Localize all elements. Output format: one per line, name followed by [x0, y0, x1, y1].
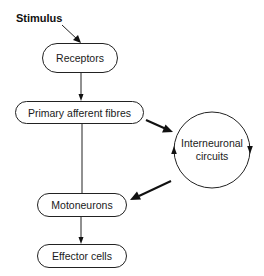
receptors-node: Receptors: [43, 44, 118, 73]
afferent-to-interneuronal-arrow: [146, 120, 173, 133]
effector-cells-label: Effector cells: [52, 250, 112, 262]
interneuronal-label-line2: circuits: [196, 150, 229, 162]
primary-afferent-node: Primary afferent fibres: [16, 102, 144, 124]
receptors-label: Receptors: [56, 52, 104, 64]
interneuronal-label-line1: Interneuronal: [181, 137, 243, 149]
interneuronal-to-motoneurons-arrow: [130, 181, 171, 200]
interneuronal-circuits-node: Interneuronal circuits: [171, 112, 253, 188]
reflex-pathway-diagram: Stimulus Receptors Primary afferent fibr…: [0, 0, 264, 276]
receptors-to-afferent-arrow: [79, 73, 84, 101]
effector-cells-node: Effector cells: [38, 245, 127, 268]
primary-afferent-label: Primary afferent fibres: [28, 107, 131, 119]
stimulus-label: Stimulus: [16, 12, 62, 24]
stimulus-arrow: [62, 25, 81, 43]
motoneurons-to-effector-arrow: [79, 217, 84, 244]
motoneurons-node: Motoneurons: [38, 194, 127, 217]
motoneurons-label: Motoneurons: [51, 199, 112, 211]
